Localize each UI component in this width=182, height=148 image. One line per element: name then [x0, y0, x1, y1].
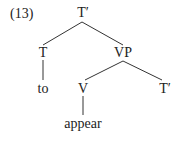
branch-root-to-t: [43, 22, 82, 45]
branch-root-to-vp: [82, 22, 123, 45]
terminal-appear: appear: [64, 117, 101, 131]
node-v: V: [78, 82, 88, 96]
node-vp: VP: [114, 46, 132, 60]
syntax-tree-diagram: (13) T′ T VP to V T′ appear: [0, 0, 182, 148]
branch-vp-to-v: [85, 61, 123, 80]
example-number: (13): [10, 7, 33, 21]
terminal-to: to: [38, 82, 49, 96]
node-t: T: [39, 46, 48, 60]
node-t-bar-root: T′: [77, 6, 89, 20]
branch-vp-to-tbar: [123, 61, 162, 80]
node-t-bar-complement: T′: [159, 82, 171, 96]
